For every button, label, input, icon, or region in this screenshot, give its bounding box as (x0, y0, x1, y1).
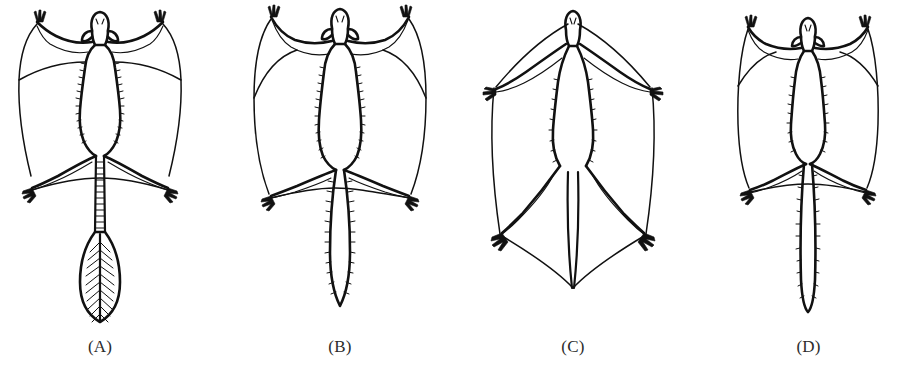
forepaw-right-b (400, 5, 412, 17)
hindleg-left-b (271, 170, 336, 196)
uropatagium-right-c (573, 236, 644, 288)
panel-a-artwork (0, 0, 200, 330)
tail-fur-ticks-d (796, 175, 820, 298)
forepaw-left-d (745, 15, 757, 27)
head-outline-a (91, 12, 108, 45)
snout-marks-d (805, 25, 811, 31)
ear-left-a (82, 31, 92, 41)
patagium-left-a (19, 24, 37, 176)
hindleg-right-c (586, 166, 644, 233)
panel-label-b: (B) (328, 338, 351, 355)
foreleg-right-lower-b (351, 20, 408, 55)
glider-drawing-b (225, 0, 455, 330)
patagium-right-b (409, 19, 426, 194)
hindfoot-right-a (164, 188, 178, 203)
hindleg-left-lower-a (32, 162, 92, 190)
uropatagium-left-c (502, 236, 573, 288)
rear-membrane-edge-d (750, 184, 866, 192)
tail-outline-b (330, 170, 350, 306)
glider-drawing-c (458, 0, 688, 330)
torso-left-b (319, 44, 336, 170)
forepaw-right-a (154, 10, 166, 22)
torso-left-d (791, 51, 806, 164)
forepaw-left-b (268, 5, 280, 17)
hindleg-right-lower-b (349, 178, 410, 198)
ear-left-b (322, 29, 332, 39)
head-outline-d (800, 18, 815, 51)
head-outline-c (565, 11, 580, 46)
tail-outline-d (801, 164, 816, 312)
glider-drawing-d (718, 0, 899, 330)
tail-enclosed-right-c (574, 172, 578, 288)
patagium-right-upper-edge-b (383, 50, 426, 98)
head-outline-b (331, 9, 348, 44)
tail-shaft-left-a (95, 156, 96, 232)
panel-a: (A) (0, 0, 200, 382)
panel-label-a: (A) (88, 338, 112, 355)
patagium-right-upper-edge-a (114, 62, 181, 80)
ear-right-a (108, 31, 118, 41)
tail-shaft-right-a (104, 156, 105, 232)
foreleg-left-lower-d (748, 30, 798, 60)
patagium-right-lateral-c (646, 88, 654, 234)
hindleg-left-c (502, 166, 560, 233)
ear-right-d (815, 37, 824, 46)
foreleg-left-lower-b (272, 20, 329, 55)
panel-b: (B) (225, 0, 455, 382)
torso-right-d (810, 51, 825, 164)
forepaw-right-d (859, 15, 871, 27)
patagium-right-upper-edge-d (840, 52, 878, 86)
patagium-right-d (867, 29, 878, 188)
hindfoot-right-c (638, 233, 655, 251)
tail-enclosed-left-c (568, 172, 572, 288)
hindfoot-left-a (22, 188, 36, 203)
torso-right-c (577, 46, 593, 166)
patagium-left-lateral-c (492, 88, 500, 234)
foreleg-right-lower-d (818, 30, 868, 60)
torso-left-c (553, 46, 569, 166)
patagium-left-upper-edge-d (738, 52, 776, 86)
glider-drawing-a (0, 0, 200, 330)
snout-marks-c (570, 18, 576, 24)
panel-label-c: (C) (561, 338, 584, 355)
ear-left-d (792, 37, 801, 46)
patagium-left-upper-edge-a (19, 62, 86, 80)
snout-marks-b (336, 16, 344, 22)
panel-b-artwork (225, 0, 455, 330)
torso-right-b (344, 44, 361, 170)
hindfoot-left-c (491, 233, 508, 251)
panel-d-artwork (718, 0, 899, 330)
forepaw-left-a (34, 10, 46, 22)
patagium-right-a (163, 24, 181, 176)
patagium-left-d (738, 29, 749, 188)
panel-c: (C) (458, 0, 688, 382)
panel-d: (D) (718, 0, 899, 382)
panel-c-artwork (458, 0, 688, 330)
patagium-left-upper-c (496, 24, 568, 87)
patagium-left-b (254, 19, 271, 194)
snout-marks-a (96, 19, 104, 24)
patagium-left-upper-edge-b (254, 50, 297, 98)
panel-label-d: (D) (796, 338, 820, 355)
hindleg-left-a (32, 156, 96, 188)
patagium-right-upper-c (578, 24, 650, 87)
hindleg-right-lower-a (108, 162, 168, 190)
hindleg-right-a (104, 156, 168, 188)
tail-scale-rungs-a (96, 162, 104, 228)
ear-right-b (348, 29, 358, 39)
figure-root: (A) (0, 0, 899, 382)
